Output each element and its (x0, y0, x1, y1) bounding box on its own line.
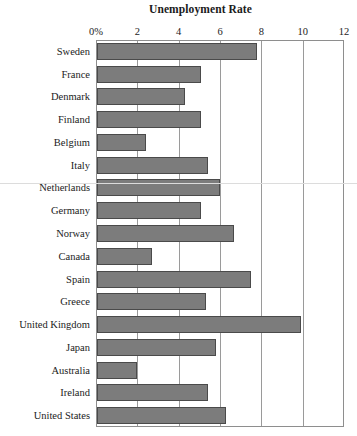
category-label: Germany (0, 205, 90, 216)
bar (97, 179, 220, 196)
x-tick-label: 8 (259, 26, 264, 37)
bar-row: Denmark (0, 86, 357, 109)
chart-title-text: Unemployment Rate (149, 3, 252, 15)
bar (97, 316, 301, 333)
category-label: Spain (0, 274, 90, 285)
category-label: Netherlands (0, 182, 90, 193)
chart-title: Unemployment Rate (0, 3, 357, 15)
category-label: Norway (0, 228, 90, 239)
x-tick-label: 6 (217, 26, 222, 37)
bar-row: France (0, 63, 357, 86)
bar-row: Spain (0, 268, 357, 291)
x-tick-label: 12 (339, 26, 350, 37)
chart-page: Unemployment Rate 0%24681012 SwedenFranc… (0, 0, 357, 436)
bar (97, 407, 226, 424)
bar-row: Australia (0, 359, 357, 382)
bar (97, 271, 251, 288)
category-label: Finland (0, 114, 90, 125)
category-label: Ireland (0, 387, 90, 398)
category-label: Australia (0, 365, 90, 376)
x-axis-ticks: 0%24681012 (0, 26, 357, 40)
bar (97, 157, 208, 174)
bar-row: Finland (0, 108, 357, 131)
bar-row: Sweden (0, 40, 357, 63)
bar-row: Italy (0, 154, 357, 177)
bar-row: Ireland (0, 381, 357, 404)
category-label: Greece (0, 296, 90, 307)
bar-row: Netherlands (0, 177, 357, 200)
bar-rows: SwedenFranceDenmarkFinlandBelgiumItalyNe… (0, 40, 357, 427)
category-label: Denmark (0, 91, 90, 102)
category-label: Italy (0, 160, 90, 171)
bar-row: United States (0, 404, 357, 427)
x-tick-label: 4 (176, 26, 181, 37)
bar-row: United Kingdom (0, 313, 357, 336)
bar (97, 362, 137, 379)
bar-row: Japan (0, 336, 357, 359)
bar-row: Norway (0, 222, 357, 245)
category-label: United States (0, 410, 90, 421)
bar (97, 202, 201, 219)
bar (97, 339, 216, 356)
bar (97, 66, 201, 83)
x-tick-label: 0% (89, 26, 103, 37)
x-tick-label: 10 (297, 26, 308, 37)
bar (97, 111, 201, 128)
category-label: France (0, 69, 90, 80)
bar-row: Canada (0, 245, 357, 268)
category-label: Sweden (0, 46, 90, 57)
scan-artifact-line (0, 183, 357, 184)
bar-row: Greece (0, 290, 357, 313)
bar (97, 248, 152, 265)
category-label: Canada (0, 251, 90, 262)
bar (97, 225, 234, 242)
bar (97, 134, 146, 151)
x-tick-label: 2 (135, 26, 140, 37)
bar-row: Germany (0, 199, 357, 222)
bar-row: Belgium (0, 131, 357, 154)
category-label: Belgium (0, 137, 90, 148)
bar (97, 293, 206, 310)
category-label: United Kingdom (0, 319, 90, 330)
bar (97, 88, 185, 105)
bar (97, 43, 257, 60)
bar (97, 384, 208, 401)
category-label: Japan (0, 342, 90, 353)
